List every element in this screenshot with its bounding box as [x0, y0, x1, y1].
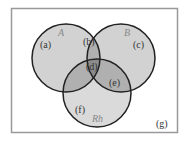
- set-a-label: A: [57, 27, 65, 38]
- set-rh-label: Rh: [91, 113, 103, 124]
- set-b-label: B: [124, 27, 130, 38]
- region-f-label: (f): [75, 104, 85, 116]
- region-c-label: (c): [133, 39, 144, 51]
- region-b-label: (b): [83, 36, 95, 48]
- region-g-label: (g): [156, 118, 168, 130]
- region-a-label: (a): [40, 39, 51, 51]
- region-d-label: (d): [86, 61, 98, 73]
- region-e-label: (e): [109, 77, 120, 89]
- venn-diagram: A B Rh (a) (b) (c) (d) (e) (f) (g): [0, 0, 185, 142]
